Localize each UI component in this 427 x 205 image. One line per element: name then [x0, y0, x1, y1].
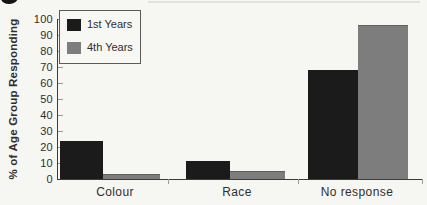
x-tick-mark [168, 179, 169, 184]
y-tick-label-90: 90 [20, 30, 53, 41]
bar-4th-years-race [230, 171, 285, 179]
bar-1st-years-colour [60, 141, 103, 179]
x-axis-line [57, 179, 423, 180]
legend-swatch-1st-years [67, 19, 81, 31]
bar-4th-years-no-response [358, 25, 408, 179]
scanned-chart-page: % of Age Group Responding 01020304050607… [0, 0, 427, 205]
scan-streak [148, 1, 420, 3]
y-tick-label-40: 40 [20, 110, 53, 121]
bar-1st-years-no-response [308, 70, 358, 179]
cutoff-letter-mark [1, 0, 19, 5]
y-tick-label-20: 20 [20, 142, 53, 153]
y-tick-label-60: 60 [20, 78, 53, 89]
y-tick-label-80: 80 [20, 46, 53, 57]
y-tick-label-50: 50 [20, 94, 53, 105]
y-axis-line [57, 19, 58, 180]
legend-label-1st-years: 1st Years [87, 18, 132, 31]
legend-item-1st-years: 1st Years [67, 18, 132, 31]
bar-4th-years-colour [103, 174, 160, 179]
x-category-label-no-response: No response [302, 185, 412, 199]
x-tick-mark [422, 179, 423, 184]
y-tick-label-30: 30 [20, 126, 53, 137]
bar-1st-years-race [186, 161, 230, 179]
y-tick-label-100: 100 [20, 14, 53, 25]
legend-item-4th-years: 4th Years [67, 41, 133, 54]
y-tick-label-0: 0 [20, 174, 53, 185]
legend-label-4th-years: 4th Years [87, 41, 133, 54]
legend: 1st Years4th Years [59, 10, 141, 64]
x-tick-mark [298, 179, 299, 184]
y-tick-label-70: 70 [20, 62, 53, 73]
legend-swatch-4th-years [67, 42, 81, 54]
x-category-label-race: Race [182, 185, 292, 199]
y-tick-label-10: 10 [20, 158, 53, 169]
y-axis-title: % of Age Group Responding [7, 18, 19, 179]
x-category-label-colour: Colour [60, 185, 170, 199]
